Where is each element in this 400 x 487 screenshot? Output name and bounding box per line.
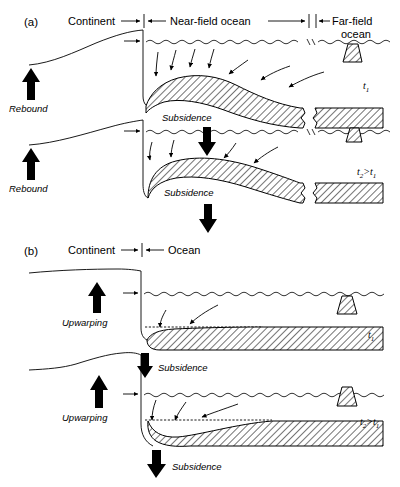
continent-surface-profile-a-t2 (29, 120, 143, 145)
panel-a: (a) Continent Near-field ocean Far-field… (9, 14, 390, 233)
diagram-canvas: (a) Continent Near-field ocean Far-field… (0, 0, 400, 487)
rebound-arrow-a-t2 (22, 148, 40, 180)
figure-root: (a) Continent Near-field ocean Far-field… (0, 0, 400, 487)
water-load-arrow-b-t1-1 (160, 310, 166, 327)
far-field-island-a-t2 (346, 128, 362, 142)
water-load-arrow-a-t1-1 (156, 52, 158, 76)
continent-surface-profile-b-t1 (29, 269, 141, 273)
water-load-arrow-a-t1-2 (171, 50, 176, 70)
sediment-body-far-a-t2 (313, 183, 383, 203)
water-load-arrow-b-t2-1 (152, 400, 156, 420)
subsidence-arrow-b-t1 (137, 353, 153, 378)
zone-label-continent-a: Continent (68, 15, 115, 27)
continental-margin-a-t2 (143, 120, 148, 198)
panel-a-timestep-t1: Rebound Subsidence t1 (9, 30, 390, 156)
upwarping-label-b-t2: Upwarping (62, 412, 108, 423)
water-load-arrow-a-t1-3 (190, 49, 195, 67)
water-load-arrow-a-t2-2 (171, 140, 174, 157)
sea-surface-far-a-t1 (318, 40, 390, 44)
subsidence-label-a-t1: Subsidence (162, 112, 212, 123)
time-label-a-t1: t1 (363, 80, 369, 94)
rebound-label-a-t1: Rebound (9, 103, 48, 114)
water-load-arrow-b-t2-3 (202, 404, 238, 417)
panel-b-label: (b) (24, 245, 38, 257)
far-field-island-b-t2 (337, 387, 357, 406)
upwarping-arrow-b-t2 (90, 375, 108, 408)
sea-surface-b-t1 (144, 292, 384, 296)
water-load-arrow-a-t2-4 (254, 147, 278, 163)
water-load-arrow-a-t1-5 (229, 60, 248, 74)
water-load-arrow-b-t1-2 (190, 305, 218, 324)
continent-surface-profile-b-t2 (29, 353, 141, 370)
rebound-label-a-t2: Rebound (9, 183, 48, 194)
time-label-a-t2: t2>t1 (357, 166, 376, 180)
sediment-body-b-t1 (147, 327, 383, 350)
continental-margin-b-t1 (141, 271, 147, 340)
subsidence-arrow-b-t2 (147, 450, 166, 478)
sediment-body-far-a-t1 (313, 108, 383, 128)
zone-label-far-field-ocean-1: Far-field (332, 15, 372, 27)
subsidence-label-a-t2: Subsidence (164, 187, 214, 198)
sea-surface-a-t2 (146, 130, 298, 134)
upwarping-label-b-t1: Upwarping (62, 317, 108, 328)
far-field-island-a-t1 (343, 44, 362, 62)
subsidence-label-b-t1: Subsidence (158, 362, 208, 373)
continent-surface-profile-a-t1 (29, 30, 143, 65)
rebound-arrow-a-t1 (22, 68, 40, 100)
water-load-arrow-b-t2-2 (175, 402, 186, 420)
water-load-arrow-a-t1-4 (209, 49, 214, 68)
water-load-arrow-a-t1-6 (261, 66, 290, 80)
water-load-arrow-a-t2-3 (224, 143, 236, 158)
sediment-body-b-t2 (148, 421, 383, 446)
zone-label-far-field-ocean-2: ocean (341, 28, 371, 40)
upwarping-arrow-b-t1 (88, 282, 106, 313)
panel-b: (b) Continent Ocean (24, 243, 384, 478)
zone-label-continent-b: Continent (68, 244, 115, 256)
panel-a-timestep-t2: Rebound Subsidence t2>t1 (9, 120, 390, 233)
zone-label-ocean-b: Ocean (168, 244, 200, 256)
panel-a-label: (a) (24, 16, 38, 28)
far-field-island-b-t1 (337, 296, 357, 314)
water-load-arrow-a-t2-1 (150, 142, 152, 160)
sea-surface-a-t1 (146, 40, 298, 44)
subsidence-label-b-t2: Subsidence (172, 461, 222, 472)
zone-label-near-field-ocean: Near-field ocean (170, 15, 251, 27)
subsidence-arrow-a-t2 (199, 204, 217, 233)
water-load-arrow-a-t1-7 (289, 72, 324, 87)
